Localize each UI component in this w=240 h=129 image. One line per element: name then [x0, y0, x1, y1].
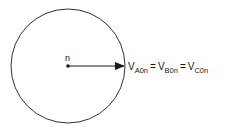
phasor-diagram: n VA0n=VB0n=VC0n [0, 0, 240, 129]
equation-label: VA0n=VB0n=VC0n [128, 61, 208, 75]
term-2-sub: B0n [165, 66, 178, 75]
term-3-sub: C0n [194, 66, 208, 75]
operator-2: = [180, 61, 186, 72]
operator-1: = [150, 61, 156, 72]
term-1-sub: A0n [135, 66, 148, 75]
center-label: n [65, 53, 70, 63]
